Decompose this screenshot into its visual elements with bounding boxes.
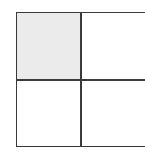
cell-top-right (81, 13, 145, 79)
grid-diagram (16, 12, 145, 147)
horizontal-divider (17, 79, 145, 81)
cell-bottom-left (17, 80, 80, 146)
cell-top-left-shaded (17, 13, 80, 79)
cell-bottom-right (81, 80, 145, 146)
